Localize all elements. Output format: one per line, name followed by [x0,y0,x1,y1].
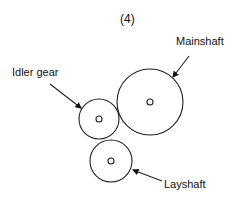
gear-train-diagram [0,0,235,213]
mainshaft-hub [147,99,153,105]
layshaft-gear [90,140,132,182]
idler-hub [96,116,102,122]
mainshaft-arrow [173,56,189,77]
mainshaft-gear [117,69,183,135]
idler-gear [79,99,119,139]
layshaft-hub [108,158,114,164]
layshaft-arrow [133,170,162,181]
idler-arrow [50,84,81,108]
